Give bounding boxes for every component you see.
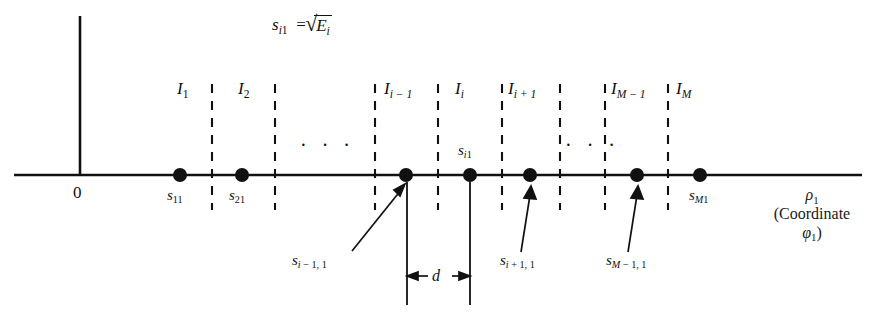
signal-point-sim11 [399, 168, 413, 182]
interval-label-Iip1: Ii + 1 [508, 80, 536, 97]
callout-arrow-sim11 [352, 190, 401, 251]
point-label-si1: si1 [458, 143, 472, 158]
point-label-sim11: si − 1, 1 [292, 253, 327, 268]
signal-point-s21 [235, 168, 249, 182]
signal-point-sMm11 [630, 168, 644, 182]
callout-arrow-sMm11 [628, 195, 637, 252]
interval-label-IM: IM [676, 80, 691, 97]
interval-label-IMm1: IM − 1 [611, 80, 646, 97]
callout-arrow-sip11 [521, 195, 530, 252]
point-label-s11: s11 [167, 188, 183, 203]
origin-label: 0 [73, 184, 82, 201]
callout-arrows [352, 184, 643, 252]
point-label-sMm11: sM − 1, 1 [606, 253, 646, 268]
energy-relation-formula: si1 = Ei √ [272, 14, 332, 33]
signal-point-s11 [173, 168, 187, 182]
axis-caption-block: ρ1 (Coordinate φ1) [760, 186, 864, 243]
point-label-sM1: sM1 [689, 188, 708, 203]
interval-label-Iim1: Ii − 1 [384, 80, 412, 97]
interval-label-Ii: Ii [455, 80, 464, 97]
point-label-s21: s21 [229, 188, 245, 203]
distance-drop-lines [407, 182, 470, 305]
interval-label-I2: I2 [238, 80, 249, 97]
axis-caption-line2: φ1) [760, 224, 864, 243]
signal-constellation-diagram: si1 = Ei √ I1 I2 Ii − 1 Ii Ii + 1 IM − 1… [0, 0, 872, 318]
axis-caption-line1: (Coordinate [760, 205, 864, 224]
signal-point-sM1 [693, 168, 707, 182]
interval-label-I1: I1 [177, 80, 188, 97]
signal-point-si1 [463, 168, 477, 182]
signal-point-sip11 [523, 168, 537, 182]
ellipsis-right: · · · [565, 135, 620, 155]
point-label-sip11: si + 1, 1 [500, 253, 535, 268]
ellipsis-left: · · · [300, 135, 355, 155]
axis-name-rho: ρ1 [760, 186, 864, 205]
distance-label-d: d [432, 268, 440, 284]
